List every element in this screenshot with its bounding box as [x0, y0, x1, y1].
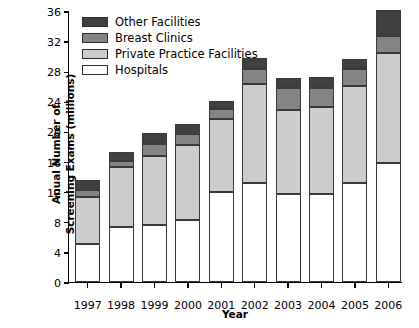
x-axis-tick-mark — [87, 283, 88, 288]
y-axis-tick-mark — [64, 252, 69, 253]
x-axis-tick-label: 2003 — [274, 299, 302, 312]
chart-legend: Other FacilitiesBreast ClinicsPrivate Pr… — [82, 14, 258, 78]
bar-segment-other-facilities-1998 — [109, 152, 134, 161]
x-axis-tick-mark — [187, 283, 188, 288]
y-axis-tick-label: 4 — [35, 246, 61, 259]
legend-item-breast-clinics: Breast Clinics — [82, 30, 258, 45]
bar-segment-private-practice-facilities-2000 — [175, 145, 200, 220]
x-axis-tick-mark — [287, 283, 288, 288]
x-axis-tick-label: 2005 — [341, 299, 369, 312]
y-axis-tick-mark — [64, 222, 69, 223]
bar-segment-breast-clinics-2000 — [175, 134, 200, 145]
bar-segment-hospitals-2004 — [309, 194, 334, 282]
bar-segment-private-practice-facilities-2004 — [309, 107, 334, 194]
y-axis-tick-mark — [64, 192, 69, 193]
legend-swatch-icon — [82, 49, 108, 59]
bar-segment-breast-clinics-2003 — [276, 88, 301, 110]
y-axis-tick-mark — [64, 102, 69, 103]
bar-segment-private-practice-facilities-1999 — [142, 156, 167, 225]
legend-label: Breast Clinics — [115, 31, 193, 45]
x-axis-tick-label: 2000 — [174, 299, 202, 312]
legend-label: Hospitals — [115, 63, 168, 77]
bar-segment-breast-clinics-2001 — [209, 109, 234, 120]
bar-segment-hospitals-1997 — [75, 244, 100, 282]
legend-item-hospitals: Hospitals — [82, 62, 258, 77]
bar-segment-other-facilities-2003 — [276, 78, 301, 88]
bar-segment-hospitals-2006 — [376, 163, 401, 282]
bar-segment-breast-clinics-2005 — [342, 69, 367, 86]
bar-segment-breast-clinics-1997 — [75, 190, 100, 197]
x-axis-tick-mark — [154, 283, 155, 288]
bar-segment-breast-clinics-2004 — [309, 88, 334, 107]
x-axis-tick-label: 1997 — [74, 299, 102, 312]
bar-segment-hospitals-2003 — [276, 194, 301, 282]
y-axis-tick-label: 16 — [35, 156, 61, 169]
y-axis-tick-label: 24 — [35, 96, 61, 109]
legend-item-private-practice-facilities: Private Practice Facilities — [82, 46, 258, 61]
bar-segment-hospitals-2005 — [342, 183, 367, 282]
bar-segment-private-practice-facilities-2003 — [276, 110, 301, 194]
bar-segment-other-facilities-1997 — [75, 180, 100, 191]
bar-segment-private-practice-facilities-1997 — [75, 197, 100, 244]
bar-segment-private-practice-facilities-2001 — [209, 119, 234, 192]
y-axis-tick-label: 12 — [35, 186, 61, 199]
y-axis-tick-label: 36 — [35, 6, 61, 19]
bar-2004 — [309, 11, 334, 282]
bar-segment-other-facilities-2005 — [342, 59, 367, 69]
y-axis-tick-label: 28 — [35, 66, 61, 79]
bar-segment-hospitals-1999 — [142, 225, 167, 282]
x-axis-tick-mark — [221, 283, 222, 288]
y-axis-tick-mark — [64, 41, 69, 42]
bar-2003 — [276, 11, 301, 282]
bar-segment-other-facilities-2004 — [309, 77, 334, 88]
bar-segment-other-facilities-1999 — [142, 133, 167, 144]
x-axis-tick-mark — [354, 283, 355, 288]
x-axis-tick-mark — [254, 283, 255, 288]
stacked-bar-chart: Anual Number of Screening Exams (million… — [0, 0, 419, 328]
bar-segment-hospitals-2002 — [242, 183, 267, 282]
bar-segment-private-practice-facilities-2002 — [242, 84, 267, 183]
legend-label: Other Facilities — [115, 15, 201, 29]
bar-segment-breast-clinics-1998 — [109, 161, 134, 167]
y-axis-tick-mark — [64, 11, 69, 12]
bar-2006 — [376, 11, 401, 282]
x-axis-tick-mark — [321, 283, 322, 288]
y-axis-tick-mark — [64, 72, 69, 73]
legend-label: Private Practice Facilities — [115, 47, 258, 61]
legend-item-other-facilities: Other Facilities — [82, 14, 258, 29]
bar-segment-private-practice-facilities-2006 — [376, 53, 401, 163]
y-axis-tick-label: 0 — [35, 277, 61, 290]
x-axis-tick-label: 2001 — [207, 299, 235, 312]
legend-swatch-icon — [82, 33, 108, 43]
y-axis-tick-mark — [64, 162, 69, 163]
y-axis-tick-label: 32 — [35, 36, 61, 49]
x-axis-tick-label: 1999 — [141, 299, 169, 312]
legend-swatch-icon — [82, 65, 108, 75]
x-axis-tick-label: 2006 — [374, 299, 402, 312]
bar-segment-hospitals-2000 — [175, 220, 200, 282]
bar-segment-breast-clinics-1999 — [142, 144, 167, 156]
y-axis-tick-mark — [64, 282, 69, 283]
x-axis-tick-label: 2002 — [241, 299, 269, 312]
bar-segment-hospitals-2001 — [209, 192, 234, 282]
bar-segment-private-practice-facilities-1998 — [109, 167, 134, 227]
bar-segment-other-facilities-2000 — [175, 124, 200, 135]
x-axis-tick-label: 2004 — [308, 299, 336, 312]
y-axis-tick-label: 8 — [35, 216, 61, 229]
x-axis-tick-mark — [388, 283, 389, 288]
bar-segment-other-facilities-2006 — [376, 10, 401, 36]
legend-swatch-icon — [82, 17, 108, 27]
bar-segment-private-practice-facilities-2005 — [342, 86, 367, 182]
x-axis-tick-mark — [120, 283, 121, 288]
y-axis-tick-mark — [64, 132, 69, 133]
bar-2005 — [342, 11, 367, 282]
bar-segment-other-facilities-2001 — [209, 101, 234, 109]
x-axis-tick-label: 1998 — [107, 299, 135, 312]
y-axis-tick-label: 20 — [35, 126, 61, 139]
bar-segment-breast-clinics-2006 — [376, 36, 401, 53]
bar-segment-hospitals-1998 — [109, 227, 134, 282]
